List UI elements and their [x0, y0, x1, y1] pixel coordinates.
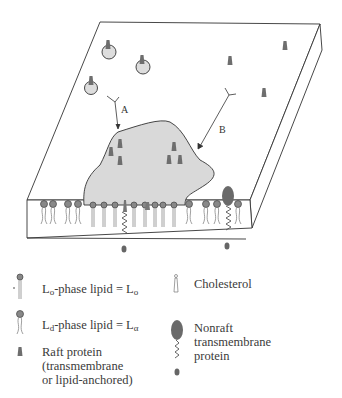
legend-nonraft-protein-label: Nonraft transmembrane protein	[194, 321, 271, 363]
legend-lo-icon	[13, 274, 23, 299]
legend-raft-protein-label: Raft protein (transmembrane or lipid-anc…	[42, 345, 133, 387]
legend-nonraft-protein-icon	[171, 320, 183, 376]
legend-cholesterol-icon	[174, 275, 178, 293]
legend-ld-label: Ld-phase lipid = Lα	[42, 318, 138, 335]
lipid-raft-diagram: A B	[0, 0, 342, 398]
legend-ld-icon	[17, 311, 24, 335]
legend-lo-label: Lo-phase lipid = Lo	[42, 282, 138, 299]
label-a: A	[121, 104, 129, 115]
legend-raft-protein-icon	[18, 347, 23, 356]
legend-cholesterol-label: Cholesterol	[194, 277, 252, 291]
label-b: B	[219, 124, 226, 135]
